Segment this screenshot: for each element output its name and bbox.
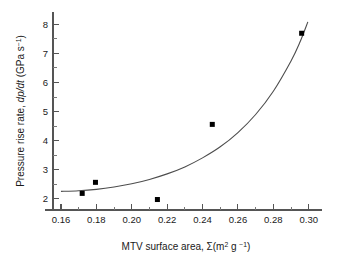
y-tick-label-3: 5 [43, 106, 48, 117]
y-axis-title: Pressure rise rate, dp/dt (GPa s−1) [15, 35, 27, 187]
exponential-fit-curve [61, 22, 308, 191]
scatter-plot: 0.160.180.200.220.240.260.280.30 2345678… [0, 0, 340, 260]
x-tick-label-2: 0.20 [123, 214, 142, 225]
x-tick-label-5: 0.26 [229, 214, 248, 225]
y-axis-ticks [53, 24, 59, 199]
y-tick-label-2: 4 [43, 135, 48, 146]
data-point-3 [210, 122, 215, 127]
y-tick-label-5: 7 [43, 48, 48, 59]
x-tick-label-3: 0.22 [158, 214, 177, 225]
axis-spines [45, 12, 322, 210]
y-tick-label-0: 2 [43, 193, 48, 204]
x-axis-tick-labels: 0.160.180.200.220.240.260.280.30 [52, 214, 318, 225]
x-axis-title: MTV surface area, Σ(m2 g −1) [122, 241, 251, 253]
data-point-0 [80, 191, 85, 196]
y-axis-tick-labels: 2345678 [43, 19, 48, 205]
y-tick-label-6: 8 [43, 19, 48, 30]
data-point-4 [299, 31, 304, 36]
x-tick-label-6: 0.28 [264, 214, 283, 225]
y-tick-label-1: 3 [43, 164, 48, 175]
x-tick-label-1: 0.18 [87, 214, 106, 225]
data-point-2 [155, 197, 160, 202]
data-point-1 [93, 180, 98, 185]
x-tick-label-4: 0.24 [193, 214, 212, 225]
x-tick-label-7: 0.30 [299, 214, 318, 225]
y-tick-label-4: 6 [43, 77, 48, 88]
x-tick-label-0: 0.16 [52, 214, 71, 225]
chart-figure: 0.160.180.200.220.240.260.280.30 2345678… [0, 0, 340, 260]
x-axis-ticks [61, 204, 309, 210]
data-point-markers [80, 31, 304, 202]
